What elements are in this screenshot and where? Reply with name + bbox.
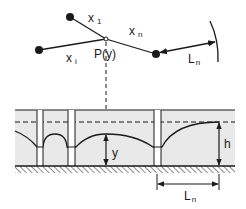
impermeable-base: [15, 166, 235, 173]
well-dot-1: [66, 13, 74, 21]
point-p: [104, 37, 108, 41]
section-view: y h Ln: [15, 110, 235, 204]
influence-arc: [210, 21, 218, 62]
well-dot-n: [152, 50, 160, 58]
label-ln-plan: Ln: [188, 52, 200, 67]
label-y: y: [112, 146, 118, 160]
label-xi: xi: [66, 51, 77, 66]
label-h: h: [224, 137, 231, 151]
diagram-canvas: x1 xi xn P(y) Ln: [0, 0, 246, 209]
label-ln-section: Ln: [184, 189, 196, 204]
aquifer: [15, 110, 235, 166]
well-2: [68, 110, 75, 166]
diagram: x1 xi xn P(y) Ln: [0, 0, 246, 209]
label-xn: xn: [129, 24, 142, 39]
well-n: [154, 110, 161, 166]
well-dot-i: [35, 46, 43, 54]
well-1: [37, 110, 43, 166]
label-p: P(y): [94, 47, 116, 61]
label-x1: x1: [88, 11, 102, 26]
plan-view: x1 xi xn P(y) Ln: [35, 11, 218, 67]
radius-arrow: [160, 42, 215, 53]
